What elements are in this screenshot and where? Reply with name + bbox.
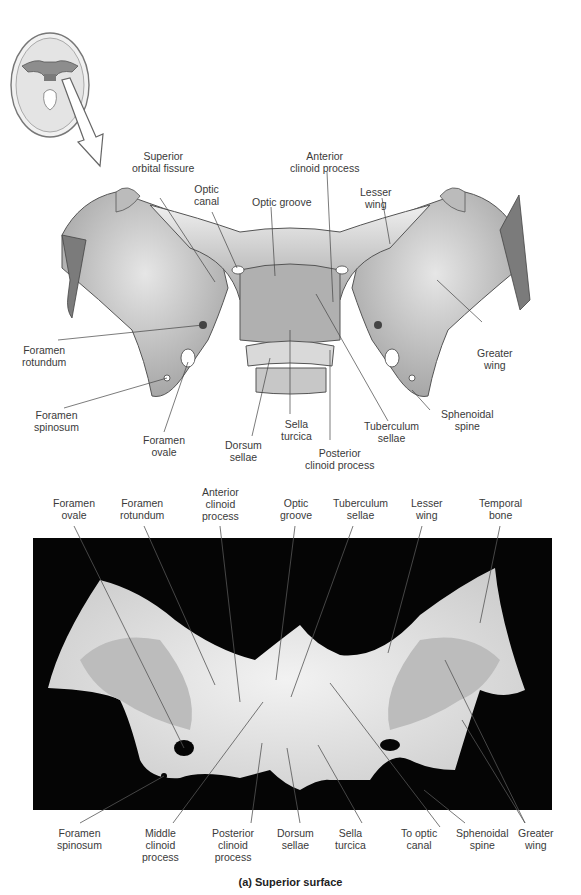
photo-label-posterior-clinoid-process: Posterior clinoid process <box>212 827 254 863</box>
photo-label-foramen-rotundum: Foramen rotundum <box>120 497 164 521</box>
photo-label-foramen-spinosum: Foramen spinosum <box>57 827 102 851</box>
sphenoid-illustration <box>62 188 530 397</box>
label-sella-turcica: Sella turcica <box>281 418 312 442</box>
label-sphenoidal-spine: Sphenoidal spine <box>441 408 494 432</box>
photo-label-greater-wing: Greater wing <box>518 827 554 851</box>
label-superior-orbital-fissure: Superior orbital fissure <box>132 150 194 174</box>
figure-caption: (a) Superior surface <box>0 876 581 888</box>
label-posterior-clinoid-process: Posterior clinoid process <box>305 447 374 471</box>
label-optic-groove: Optic groove <box>252 196 312 208</box>
photo-label-sella-turcica: Sella turcica <box>335 827 366 851</box>
photo-label-optic-groove: Optic groove <box>280 497 312 521</box>
photo-label-foramen-ovale: Foramen ovale <box>53 497 95 521</box>
photo-label-anterior-clinoid-process: Anterior clinoid process <box>202 486 239 522</box>
label-tuberculum-sellae: Tuberculum sellae <box>364 420 419 444</box>
photo-label-lesser-wing: Lesser wing <box>411 497 443 521</box>
photo-label-tuberculum-sellae: Tuberculum sellae <box>333 497 388 521</box>
label-foramen-rotundum: Foramen rotundum <box>22 344 66 368</box>
photo-label-sphenoidal-spine: Sphenoidal spine <box>456 827 509 851</box>
label-lesser-wing: Lesser wing <box>360 186 392 210</box>
label-optic-canal: Optic canal <box>194 183 219 207</box>
label-greater-wing: Greater wing <box>477 347 513 371</box>
figure-graphics <box>0 0 581 895</box>
photo-label-middle-clinoid-process: Middle clinoid process <box>142 827 179 863</box>
label-foramen-spinosum: Foramen spinosum <box>34 409 79 433</box>
photo-label-to-optic-canal: To optic canal <box>401 827 437 851</box>
photo-label-dorsum-sellae: Dorsum sellae <box>277 827 314 851</box>
photo-label-temporal-bone: Temporal bone <box>479 497 522 521</box>
label-dorsum-sellae: Dorsum sellae <box>225 439 262 463</box>
label-anterior-clinoid-process: Anterior clinoid process <box>290 150 359 174</box>
label-foramen-ovale: Foramen ovale <box>143 434 185 458</box>
